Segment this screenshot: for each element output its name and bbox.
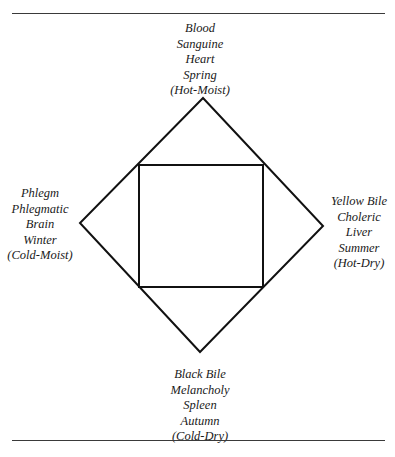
node-left-phlegm: Phlegm Phlegmatic Brain Winter (Cold-Moi… bbox=[0, 186, 80, 264]
outer-diamond bbox=[80, 98, 323, 352]
humor-name: Blood bbox=[140, 21, 260, 37]
temperament: Sanguine bbox=[140, 37, 260, 53]
season: Autumn bbox=[140, 414, 260, 430]
inner-square bbox=[139, 165, 263, 287]
node-top-blood: Blood Sanguine Heart Spring (Hot-Moist) bbox=[140, 21, 260, 99]
temperament: Melancholy bbox=[140, 383, 260, 399]
season: Spring bbox=[140, 68, 260, 84]
qualities: (Hot-Moist) bbox=[140, 83, 260, 99]
node-bottom-black-bile: Black Bile Melancholy Spleen Autumn (Col… bbox=[140, 367, 260, 445]
qualities: (Hot-Dry) bbox=[323, 256, 395, 272]
temperament: Phlegmatic bbox=[0, 202, 80, 218]
organ: Heart bbox=[140, 52, 260, 68]
humor-name: Yellow Bile bbox=[323, 194, 395, 210]
bottom-rule bbox=[12, 440, 385, 441]
season: Winter bbox=[0, 233, 80, 249]
temperament: Choleric bbox=[323, 210, 395, 226]
season: Summer bbox=[323, 241, 395, 257]
qualities: (Cold-Moist) bbox=[0, 248, 80, 264]
qualities: (Cold-Dry) bbox=[140, 429, 260, 445]
organ: Spleen bbox=[140, 398, 260, 414]
organ: Liver bbox=[323, 225, 395, 241]
node-right-yellow-bile: Yellow Bile Choleric Liver Summer (Hot-D… bbox=[323, 194, 395, 272]
humor-name: Black Bile bbox=[140, 367, 260, 383]
organ: Brain bbox=[0, 217, 80, 233]
humor-name: Phlegm bbox=[0, 186, 80, 202]
